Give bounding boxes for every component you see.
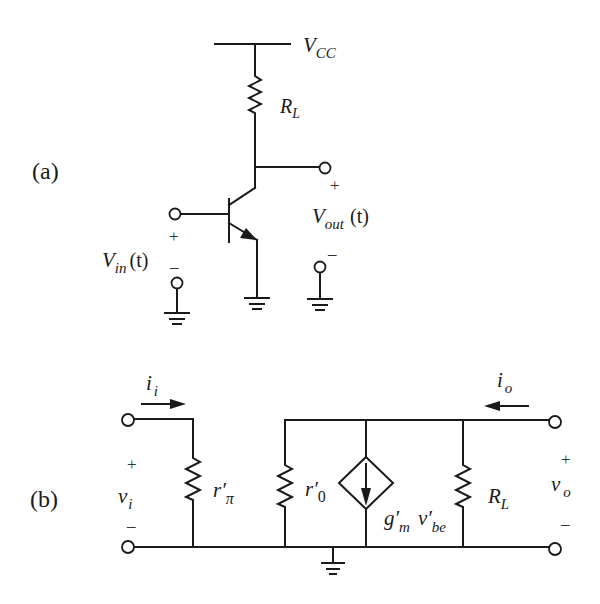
vcc-label: VCC <box>303 33 337 61</box>
collector-diagonal <box>229 188 255 205</box>
vi-plus-sign: + <box>127 455 137 474</box>
load-label-b: RL <box>487 484 509 512</box>
panel-b-tag: (b) <box>30 486 58 512</box>
vo-minus-sign: – <box>560 514 570 533</box>
output-current-arrow-icon <box>484 401 500 411</box>
vout-plus-sign: + <box>330 176 340 195</box>
vin-plus-sign: + <box>169 227 179 246</box>
circuit-figure: (a) VCC RL + + Vin(t) – Vout(t) – (b) <box>0 0 600 604</box>
vin-minus-sign: – <box>169 257 179 276</box>
transconductance-label: g′mv′be <box>384 506 446 535</box>
load-label-a: RL <box>279 95 300 121</box>
vout-plus-terminal <box>320 163 331 174</box>
vout-minus-sign: – <box>327 244 337 263</box>
r-0-label: r′0 <box>305 477 326 505</box>
vin-label: Vin(t) <box>102 248 148 276</box>
panel-a-tag: (a) <box>32 158 59 184</box>
vi-minus-terminal <box>122 541 134 553</box>
vo-plus-terminal <box>549 416 561 428</box>
emitter-arrow-icon <box>240 228 257 240</box>
load-resistor-b <box>456 420 470 547</box>
vi-plus-terminal <box>122 414 134 426</box>
vi-label: vi <box>118 484 133 512</box>
r-pi-label: r′π <box>213 478 235 507</box>
vi-minus-sign: – <box>126 516 136 535</box>
vout-minus-terminal <box>315 262 326 273</box>
vo-label: vo <box>551 472 571 500</box>
input-current-arrow-icon <box>170 399 186 409</box>
r-pi-resistor <box>186 419 200 547</box>
r-0-resistor <box>278 420 292 547</box>
vout-label: Vout(t) <box>312 204 369 232</box>
vin-plus-terminal <box>170 209 181 220</box>
output-current-label: io <box>497 368 513 396</box>
vin-minus-terminal <box>172 278 183 289</box>
load-resistor-a <box>249 44 261 167</box>
vo-plus-sign: + <box>561 450 571 469</box>
input-current-label: ii <box>146 371 158 399</box>
vo-minus-terminal <box>549 543 561 555</box>
